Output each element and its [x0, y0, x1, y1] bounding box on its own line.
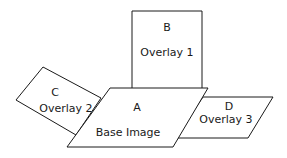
shape-b-overlay-1: B Overlay 1 — [132, 11, 202, 89]
shape-c-label: Overlay 2 — [39, 102, 92, 115]
shape-d-label: Overlay 3 — [199, 113, 252, 126]
shape-b-letter: B — [163, 21, 171, 34]
shape-a-label: Base Image — [96, 126, 161, 139]
shape-c-letter: C — [51, 86, 59, 99]
overlay-diagram: B Overlay 1 C Overlay 2 D Overlay 3 A Ba… — [0, 0, 287, 158]
shape-d-letter: D — [225, 100, 233, 113]
shape-a-letter: A — [133, 101, 141, 114]
shape-b-label: Overlay 1 — [140, 46, 193, 59]
